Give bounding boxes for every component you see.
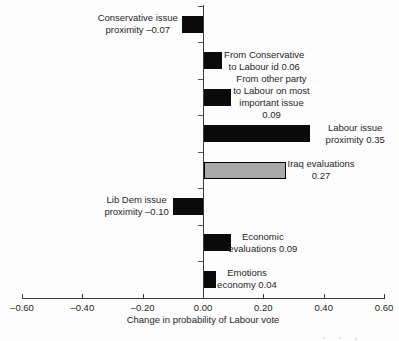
bar-label-line: From Conservative [224,49,304,61]
x-tick-label: 0.40 [314,302,333,313]
bar-label-line: Lib Dem issue [104,194,168,206]
bar-label-line: From other party [233,73,310,85]
category-tick [198,225,203,226]
category-tick [198,261,203,262]
x-tick-label: –0.40 [70,302,94,313]
x-tick [143,294,144,298]
category-tick [198,152,203,153]
x-tick-label: 0.20 [254,302,273,313]
bar-label-conservative-issue-proximity: Conservative issueproximity –0.07 [98,12,178,36]
category-tick [198,115,203,116]
bar-conservative-issue-proximity [182,16,203,33]
scan-artifact [339,337,341,339]
category-tick [198,79,203,80]
x-tick [263,294,264,298]
category-tick [198,6,203,7]
bar-label-line: Labour issue [326,122,385,134]
x-axis-line [22,298,386,299]
bar-other-party-to-labour-issue [204,89,231,106]
x-tick-label: –0.20 [131,302,155,313]
zero-axis-line [203,5,204,299]
x-tick [82,294,83,298]
bar-conservative-to-labour-id [204,52,222,69]
bar-label-line: economy 0.04 [217,279,277,291]
x-tick [203,294,204,298]
bar-label-line: important issue [233,97,310,109]
bar-label-other-party-to-labour-issue: From other partyto Labour on mostimporta… [233,73,310,121]
bar-label-line: Emotions [217,267,277,279]
bar-label-emotions-economy: Emotionseconomy 0.04 [217,267,277,291]
bar-label-lib-dem-issue-proximity: Lib Dem issueproximity –0.10 [104,194,168,218]
bar-economic-evaluations [204,234,231,251]
bar-label-line: proximity –0.10 [104,206,168,218]
bar-label-line: proximity –0.07 [98,24,178,36]
scan-artifact [355,338,357,340]
bar-label-line: evaluations 0.09 [228,243,297,255]
plot-area: Conservative issueproximity –0.07From Co… [0,0,399,341]
bar-label-line: Conservative issue [98,12,178,24]
bar-label-line: 0.09 [233,109,310,121]
category-tick [198,188,203,189]
bar-label-line: 0.27 [288,170,355,182]
bar-iraq-evaluations [204,162,286,179]
bar-label-line: Iraq evaluations [288,158,355,170]
bar-lib-dem-issue-proximity [173,198,203,215]
bar-label-conservative-to-labour-id: From Conservativeto Labour id 0.06 [224,49,304,73]
bar-label-labour-issue-proximity: Labour issueproximity 0.35 [326,122,385,146]
bar-labour-issue-proximity [204,125,310,142]
bar-label-iraq-evaluations: Iraq evaluations0.27 [288,158,355,182]
category-tick [198,42,203,43]
x-axis-title: Change in probability of Labour vote [127,314,280,325]
bar-label-line: proximity 0.35 [326,134,385,146]
bar-emotions-economy [204,271,216,288]
bar-label-line: to Labour id 0.06 [224,61,304,73]
bar-label-economic-evaluations: Economicevaluations 0.09 [228,231,297,255]
bar-label-line: to Labour on most [233,85,310,97]
x-tick-label: 0.60 [375,302,394,313]
scan-artifact [323,337,325,339]
x-tick-label: –0.60 [10,302,34,313]
x-tick [384,294,385,298]
x-tick-label: 0.00 [194,302,213,313]
x-tick [324,294,325,298]
bar-label-line: Economic [228,231,297,243]
bar-chart-figure: Conservative issueproximity –0.07From Co… [0,0,399,341]
x-tick [22,294,23,298]
